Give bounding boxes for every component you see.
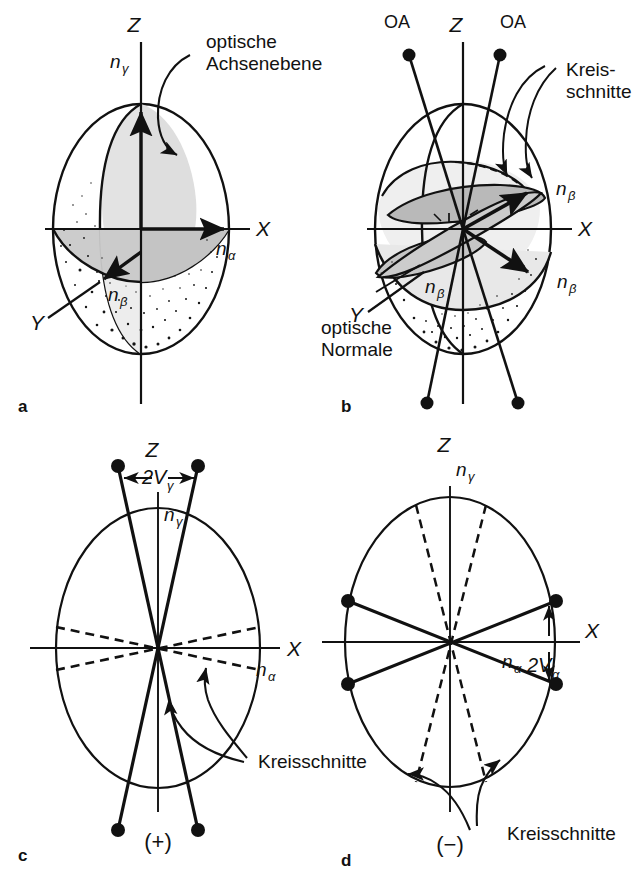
svg-text:β: β [119,294,128,309]
figure-optische-indikatrix: Z X Y n γ n α n β optische Achsenebene a [0,0,642,877]
optic-axis-dot-bl-c [111,823,125,837]
callout-optische-b: optische [321,317,392,338]
panel-a-letter: a [18,397,28,416]
svg-text:α: α [552,667,560,682]
optic-axis-left-label-b: OA [384,12,410,32]
optic-axis-dot-br-c [191,823,205,837]
panel-d-letter: d [341,851,351,870]
axis-X-label-a: X [255,217,271,240]
axis-Z-label-a: Z [127,13,142,36]
callout-kreis-b: Kreis- [566,59,616,80]
svg-text:n: n [557,271,568,292]
callout-schnitte-b: schnitte [566,81,631,102]
panel-b-letter: b [341,397,351,416]
svg-text:2V: 2V [526,654,553,676]
svg-text:β: β [436,286,445,301]
optic-axis-left-lower-dot-b [421,397,434,410]
svg-text:β: β [567,188,576,203]
optic-sign-c: (+) [144,829,172,854]
callout-kreisschnitte-c: Kreisschnitte [258,751,367,772]
axis-X-label-d: X [584,619,600,642]
optic-axis-left-dot-b [403,49,416,62]
svg-text:n: n [164,504,175,525]
optic-axis-right-dot-b [494,49,507,62]
axis-X-label-b: X [577,217,593,240]
svg-text:n: n [425,276,436,297]
optic-axis-right-label-b: OA [500,12,526,32]
optic-axis-dot-tl-d [341,594,355,608]
panel-c-letter: c [18,846,27,865]
svg-text:α: α [268,669,276,684]
callout-optische-a: optische [206,31,277,52]
svg-text:n: n [110,51,121,72]
optic-axis-dot-tl-c [111,459,125,473]
svg-text:2V: 2V [141,466,168,488]
svg-text:n: n [216,238,227,259]
optic-axis-dot-tr-c [191,459,205,473]
svg-text:n: n [108,284,119,305]
callout-kreisschnitte-d: Kreisschnitte [507,823,616,844]
axis-Z-label-b: Z [449,13,464,36]
optic-axis-dot-bl-d [341,677,355,691]
axis-Z-label-c: Z [145,438,160,461]
svg-text:α: α [514,661,522,676]
figure-canvas: Z X Y n γ n α n β optische Achsenebene a [0,0,642,877]
callout-normale-b: Normale [321,339,393,360]
axis-Z-label-d: Z [437,433,452,456]
axis-Y-label-a: Y [30,311,46,334]
optic-axis-dot-tr-d [549,594,563,608]
optic-sign-d: (−) [436,832,464,857]
axis-X-label-c: X [286,637,302,660]
svg-text:n: n [256,659,267,680]
svg-text:β: β [568,281,577,296]
callout-achsenebene-a: Achsenebene [206,53,322,74]
svg-text:α: α [228,248,236,263]
optic-axis-right-lower-dot-b [512,397,525,410]
svg-text:n: n [556,178,567,199]
svg-text:n: n [456,459,467,480]
svg-text:n: n [502,651,513,672]
